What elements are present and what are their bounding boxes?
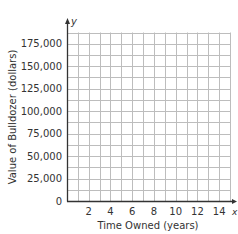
x-tick-label: 2 <box>86 206 92 217</box>
y-tick-label: 0 <box>56 196 62 207</box>
y-axis-title: Value of Bulldozer (dollars) <box>7 50 18 185</box>
x-tick-label: 8 <box>151 206 157 217</box>
x-tick-label: 10 <box>169 206 182 217</box>
y-tick-label: 100,000 <box>21 106 62 117</box>
x-axis-variable-label: x <box>231 207 238 217</box>
y-tick-label: 50,000 <box>27 151 62 162</box>
x-axis-arrow-icon <box>232 199 237 204</box>
x-axis-title: Time Owned (years) <box>96 220 198 231</box>
x-tick-label: 14 <box>213 206 226 217</box>
empty-coordinate-grid: 025,00050,00075,000100,000125,000150,000… <box>0 0 238 234</box>
x-tick-label: 4 <box>107 206 113 217</box>
y-tick-label: 175,000 <box>21 38 62 49</box>
x-tick-labels: 2468101214 <box>86 206 226 217</box>
grid-lines <box>67 33 231 202</box>
y-tick-label: 125,000 <box>21 83 62 94</box>
y-tick-label: 150,000 <box>21 61 62 72</box>
y-tick-label: 75,000 <box>27 128 62 139</box>
x-tick-label: 12 <box>191 206 204 217</box>
y-tick-labels: 025,00050,00075,000100,000125,000150,000… <box>21 38 62 206</box>
y-axis-variable-label: y <box>70 16 78 27</box>
y-axis-arrow-icon <box>65 18 70 24</box>
x-tick-label: 6 <box>129 206 135 217</box>
y-tick-label: 25,000 <box>27 173 62 184</box>
